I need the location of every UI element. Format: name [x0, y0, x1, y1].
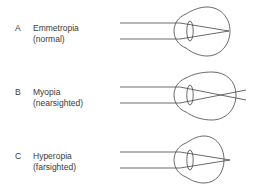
eye-hyperopia-icon — [0, 128, 255, 190]
panel-myopia: B Myopia (nearsighted) — [0, 64, 255, 127]
eye-myopia-icon — [0, 64, 255, 127]
panel-emmetropia: A Emmetropia (normal) — [0, 0, 255, 63]
panel-hyperopia: C Hyperopia (farsighted) — [0, 128, 255, 190]
refraction-diagram: A Emmetropia (normal) B Myopia (nearsigh… — [0, 0, 255, 190]
eye-emmetropia-icon — [0, 0, 255, 63]
